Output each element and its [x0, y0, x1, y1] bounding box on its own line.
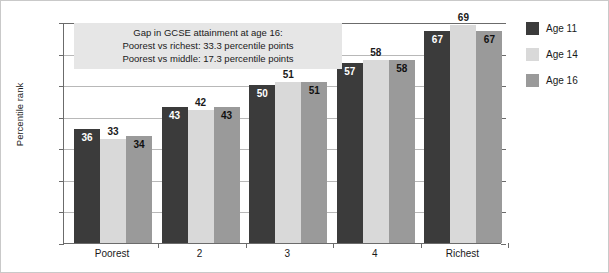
bar-value-label: 34 [126, 139, 152, 150]
legend-item[interactable]: Age 16 [526, 67, 606, 93]
bar-group: 676967 [424, 23, 502, 243]
bar[interactable]: 57 [337, 63, 363, 243]
bar-value-label: 58 [363, 47, 389, 58]
bar-value-label: 42 [188, 97, 214, 108]
bar-value-label: 33 [100, 126, 126, 137]
y-axis-tick [59, 244, 64, 245]
bar[interactable]: 58 [363, 60, 389, 243]
bar[interactable]: 34 [126, 136, 152, 243]
bar[interactable]: 42 [188, 110, 214, 243]
bar[interactable]: 43 [162, 107, 188, 243]
legend-item[interactable]: Age 11 [526, 15, 606, 41]
x-axis-tick-label: Richest [407, 248, 517, 259]
legend-item[interactable]: Age 14 [526, 41, 606, 67]
annotation-line-1: Gap in GCSE attainment at age 16: [133, 27, 282, 39]
legend-swatch [526, 74, 539, 87]
bar-value-label: 51 [301, 85, 327, 96]
bar-value-label: 58 [389, 63, 415, 74]
annotation-line-2: Poorest vs richest: 33.3 percentile poin… [122, 40, 293, 52]
annotation-box: Gap in GCSE attainment at age 16: Poores… [74, 23, 342, 69]
bar[interactable]: 33 [100, 139, 126, 243]
bar[interactable]: 43 [214, 107, 240, 243]
bar-value-label: 69 [450, 12, 476, 23]
bar-value-label: 67 [424, 34, 450, 45]
y-axis-tick [501, 244, 506, 245]
legend-label: Age 11 [546, 23, 577, 34]
bar-value-label: 50 [249, 88, 275, 99]
legend-swatch [526, 48, 539, 61]
bar[interactable]: 50 [249, 85, 275, 243]
annotation-line-3: Poorest vs middle: 17.3 percentile point… [122, 53, 293, 65]
bar[interactable]: 69 [450, 25, 476, 243]
bar-value-label: 36 [74, 132, 100, 143]
legend-label: Age 16 [546, 75, 578, 86]
bar-value-label: 51 [275, 69, 301, 80]
y-axis-title: Percentile rank [14, 35, 25, 195]
bar-chart-figure: Percentile rank 010203040506070 36333443… [0, 0, 609, 273]
legend: Age 11Age 14Age 16 [526, 15, 606, 93]
bar[interactable]: 51 [301, 82, 327, 243]
bar[interactable]: 36 [74, 129, 100, 243]
bar[interactable]: 58 [389, 60, 415, 243]
bar-value-label: 67 [476, 34, 502, 45]
legend-label: Age 14 [546, 49, 578, 60]
bar[interactable]: 67 [424, 31, 450, 243]
bar-group: 575858 [337, 23, 415, 243]
bar[interactable]: 67 [476, 31, 502, 243]
bar-value-label: 43 [214, 110, 240, 121]
bar-value-label: 43 [162, 110, 188, 121]
bar[interactable]: 51 [275, 82, 301, 243]
legend-swatch [526, 22, 539, 35]
